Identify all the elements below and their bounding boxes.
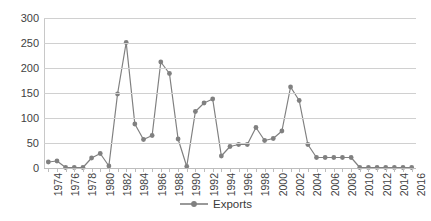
x-tick-2003 [299,168,300,172]
x-tick-2006 [325,168,326,172]
gridline-200 [44,68,416,69]
x-tick-1987 [161,168,162,172]
x-tick-label-2016: 2016 [416,173,427,196]
x-tick-1975 [57,168,58,172]
x-tick-label-1994: 1994 [226,173,237,196]
data-point-1974 [46,160,51,165]
data-point-1985 [141,137,146,142]
y-tick-label-150: 150 [21,88,39,99]
x-tick-2008 [342,168,343,172]
legend-entry-label: Exports [213,198,252,210]
data-point-2003 [297,98,302,103]
x-tick-label-1992: 1992 [209,173,220,196]
exports-line-chart: 050100150200250300 197419761978198019821… [0,0,431,221]
gridline-250 [44,43,416,44]
x-tick-2012 [377,168,378,172]
x-tick-1979 [92,168,93,172]
plot-area [44,18,416,168]
x-tick-2016 [412,168,413,172]
x-tick-2004 [308,168,309,172]
x-tick-label-2014: 2014 [399,173,410,196]
data-point-1994 [219,154,224,159]
y-tick-label-300: 300 [21,13,39,24]
x-tick-label-2006: 2006 [330,173,341,196]
x-tick-2015 [403,168,404,172]
x-tick-2009 [351,168,352,172]
data-point-2008 [340,155,345,160]
x-tick-1984 [135,168,136,172]
y-tick-label-200: 200 [21,63,39,74]
y-tick-label-100: 100 [21,113,39,124]
x-tick-1978 [83,168,84,172]
y-tick-label-50: 50 [27,138,39,149]
x-tick-label-1996: 1996 [243,173,254,196]
x-tick-2001 [282,168,283,172]
x-tick-1983 [126,168,127,172]
data-point-2005 [314,155,319,160]
x-tick-1982 [118,168,119,172]
x-tick-1999 [265,168,266,172]
x-tick-label-1984: 1984 [139,173,150,196]
x-tick-1974 [48,168,49,172]
data-point-2002 [288,85,293,90]
data-point-2000 [271,136,276,141]
x-tick-label-1978: 1978 [87,173,98,196]
x-tick-1996 [239,168,240,172]
x-tick-2013 [386,168,387,172]
x-tick-1977 [74,168,75,172]
x-tick-label-2002: 2002 [295,173,306,196]
x-tick-2002 [291,168,292,172]
x-tick-2000 [273,168,274,172]
x-tick-1981 [109,168,110,172]
x-tick-label-1988: 1988 [174,173,185,196]
x-tick-2007 [334,168,335,172]
data-point-1987 [158,60,163,65]
x-tick-label-2010: 2010 [364,173,375,196]
gridline-150 [44,93,416,94]
data-point-1979 [89,156,94,161]
data-point-1998 [254,125,259,130]
y-axis-tick-labels: 050100150200250300 [0,0,39,221]
x-tick-label-2008: 2008 [347,173,358,196]
data-point-1991 [193,109,198,114]
x-tick-label-1980: 1980 [105,173,116,196]
data-point-1989 [176,137,181,142]
x-tick-1998 [256,168,257,172]
x-tick-1992 [204,168,205,172]
x-tick-label-1990: 1990 [191,173,202,196]
data-point-1995 [228,144,233,149]
data-point-1980 [98,151,103,156]
chart-legend: Exports [0,198,431,210]
data-point-1986 [150,133,155,138]
x-tick-1997 [247,168,248,172]
x-tick-2011 [368,168,369,172]
x-tick-1985 [143,168,144,172]
legend-line-marker-icon [179,198,209,210]
x-tick-1989 [178,168,179,172]
data-point-1984 [132,122,137,127]
data-point-2006 [323,155,328,160]
x-tick-1991 [195,168,196,172]
x-tick-1976 [66,168,67,172]
x-tick-label-1986: 1986 [157,173,168,196]
y-tick-label-0: 0 [33,163,39,174]
x-tick-label-2012: 2012 [382,173,393,196]
data-point-2001 [280,129,285,134]
x-tick-label-1998: 1998 [260,173,271,196]
data-point-1992 [202,101,207,106]
y-tick-label-250: 250 [21,38,39,49]
x-tick-2005 [317,168,318,172]
x-tick-1993 [213,168,214,172]
x-tick-1990 [187,168,188,172]
x-tick-label-2004: 2004 [312,173,323,196]
x-tick-label-1976: 1976 [70,173,81,196]
gridline-300 [44,18,416,19]
x-tick-1994 [221,168,222,172]
x-tick-1980 [100,168,101,172]
x-tick-1986 [152,168,153,172]
x-tick-label-1974: 1974 [53,173,64,196]
x-tick-1995 [230,168,231,172]
data-point-1993 [210,97,215,102]
x-tick-label-2000: 2000 [278,173,289,196]
x-tick-2010 [360,168,361,172]
